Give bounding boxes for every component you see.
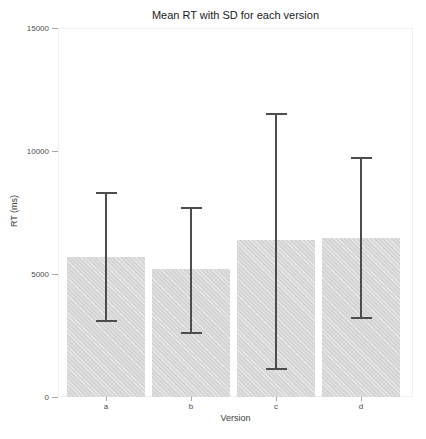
x-tick-mark	[191, 397, 192, 401]
error-bar-cap-lower-b	[181, 332, 202, 334]
x-tick-label: b	[176, 402, 206, 411]
error-bar-cap-lower-c	[266, 368, 287, 370]
y-axis-title: RT (ms)	[9, 181, 19, 241]
x-tick-mark	[106, 397, 107, 401]
y-tick-label: 15000	[0, 24, 49, 33]
x-axis-title: Version	[58, 413, 413, 423]
error-bar-cap-upper-b	[181, 207, 202, 209]
y-tick-mark	[52, 274, 58, 275]
x-tick-mark	[276, 397, 277, 401]
error-bar-line-c	[275, 114, 277, 369]
error-bar-line-d	[360, 158, 362, 318]
y-tick-label: 0	[0, 393, 49, 402]
y-tick-label: 5000	[0, 270, 49, 279]
x-tick-label: d	[346, 402, 376, 411]
x-tick-label: c	[261, 402, 291, 411]
x-tick-mark	[361, 397, 362, 401]
y-tick-mark	[52, 28, 58, 29]
error-bar-cap-upper-d	[351, 157, 372, 159]
error-bar-cap-upper-c	[266, 113, 287, 115]
error-bar-cap-lower-d	[351, 317, 372, 319]
chart-title: Mean RT with SD for each version	[58, 9, 413, 21]
error-bar-line-a	[105, 193, 107, 321]
y-tick-mark	[52, 151, 58, 152]
y-tick-mark	[52, 397, 58, 398]
error-bar-cap-upper-a	[96, 192, 117, 194]
error-bar-line-b	[190, 208, 192, 333]
x-tick-label: a	[91, 402, 121, 411]
bar-chart: Mean RT with SD for each version RT (ms)…	[0, 0, 426, 439]
error-bar-cap-lower-a	[96, 320, 117, 322]
y-tick-label: 10000	[0, 147, 49, 156]
